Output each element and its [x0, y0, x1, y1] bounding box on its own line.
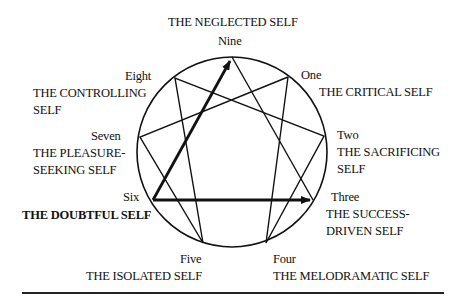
nine-type-label: THE NEGLECTED SELF	[168, 14, 298, 31]
two-type-label-2: SELF	[337, 161, 365, 178]
seven-type-label-2: SEEKING SELF	[33, 162, 116, 179]
six-type-label: THE DOUBTFUL SELF	[22, 207, 151, 224]
bottom-rule-divider	[22, 292, 444, 294]
eight-number-label: Eight	[125, 68, 151, 85]
four-type-label: THE MELODRAMATIC SELF	[273, 268, 429, 285]
nine-number-label: Nine	[218, 33, 242, 50]
eight-type-label-2: SELF	[33, 102, 61, 119]
five-type-label: THE ISOLATED SELF	[86, 268, 202, 285]
two-number-label: Two	[337, 127, 358, 144]
three-number-label: Three	[331, 189, 359, 206]
seven-type-label-1: THE PLEASURE-	[33, 145, 125, 162]
three-type-label-2: DRIVEN SELF	[326, 223, 403, 240]
one-number-label: One	[301, 67, 321, 84]
four-number-label: Four	[273, 251, 296, 268]
one-type-label: THE CRITICAL SELF	[319, 84, 433, 101]
six-number-label: Six	[123, 189, 139, 206]
hexad-lines	[140, 77, 324, 243]
five-number-label: Five	[180, 251, 201, 268]
two-type-label-1: THE SACRIFICING	[337, 144, 440, 161]
enneagram-circle	[137, 57, 327, 247]
three-type-label-1: THE SUCCESS-	[326, 206, 409, 223]
eight-type-label-1: THE CONTROLLING	[33, 85, 146, 102]
seven-number-label: Seven	[91, 128, 121, 145]
